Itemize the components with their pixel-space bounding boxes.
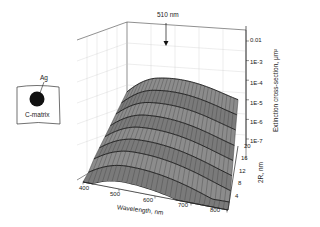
x-tick-600: 600 — [143, 197, 153, 203]
z-tick-2: 1E-4 — [250, 80, 263, 86]
peak-annotation: 510 nm — [157, 11, 179, 18]
y-tick-8: 8 — [238, 180, 241, 186]
z-tick-1: 1E-3 — [250, 59, 263, 65]
x-tick-800: 800 — [210, 207, 220, 213]
x-tick-500: 500 — [110, 191, 120, 197]
inset-particle-label: Ag — [40, 74, 48, 81]
peak-arrow-icon — [164, 23, 169, 46]
extinction-surface — [83, 78, 238, 210]
ag-particle-icon — [30, 92, 45, 107]
y-tick-12: 12 — [239, 168, 246, 174]
z-tick-4: 1E-6 — [250, 119, 263, 125]
z-axis-title: Extinction cross-section, μm² — [272, 49, 279, 132]
x-tick-400: 400 — [79, 185, 89, 191]
inset-matrix-label: C-matrix — [25, 111, 50, 118]
z-tick-5: 1E-7 — [250, 138, 263, 144]
y-tick-20: 20 — [244, 143, 251, 149]
x-tick-700: 700 — [178, 202, 188, 208]
y-tick-4: 4 — [235, 193, 238, 199]
y-axis-title: 2R, nm — [257, 162, 264, 183]
z-tick-3: 1E-5 — [250, 100, 263, 106]
z-tick-0: 0.01 — [250, 37, 262, 43]
y-tick-16: 16 — [241, 155, 248, 161]
